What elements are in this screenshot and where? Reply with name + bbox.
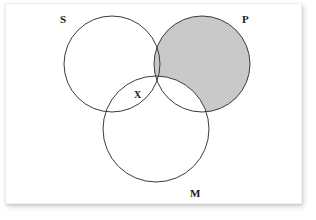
circle-label-s: S	[60, 14, 66, 25]
shade-fill	[0, 0, 316, 220]
circle-label-p: P	[242, 14, 249, 25]
x-mark: X	[134, 90, 141, 100]
venn-diagram-canvas: S P M X	[0, 0, 316, 220]
shaded-region-p-minus-m	[0, 0, 316, 220]
venn-svg	[0, 0, 316, 220]
circle-label-m: M	[190, 188, 201, 199]
